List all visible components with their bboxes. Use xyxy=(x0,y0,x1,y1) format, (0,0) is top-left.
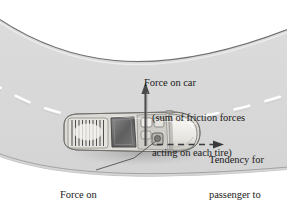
tendency-line1: Tendency for xyxy=(209,154,264,166)
force-on-car-line2: (sum of friction forces xyxy=(144,112,245,124)
tendency-line2: passenger to xyxy=(209,189,264,201)
car-rear-window xyxy=(111,117,136,147)
force-on-passenger-line1: Force on xyxy=(60,189,101,201)
force-on-passenger-label: Force on passenger xyxy=(60,166,101,204)
car-rear-deck xyxy=(68,118,108,148)
force-diagram-figure: Force on car (sum of friction forces act… xyxy=(0,0,287,204)
tendency-label: Tendency for passenger to go straight xyxy=(209,131,264,204)
force-on-car-line1: Force on car xyxy=(144,77,245,89)
